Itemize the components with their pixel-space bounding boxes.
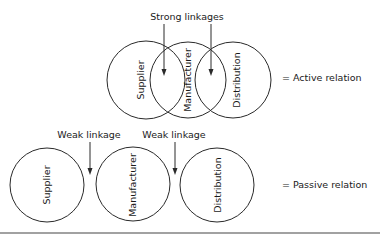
strong-linkage-arrow-1 — [162, 24, 167, 76]
passive-supplier-label: Supplier — [41, 165, 52, 204]
passive-distribution-label: Distribution — [212, 157, 223, 212]
active-relation-group: Strong linkages Supplier Manufacturer Di… — [107, 11, 362, 119]
active-supplier-label: Supplier — [135, 60, 146, 99]
passive-relation-group: Weak linkage Weak linkage Supplier Manuf… — [10, 129, 367, 222]
active-relation-legend: = Active relation — [282, 72, 362, 83]
arrow-down-icon — [88, 168, 93, 175]
active-distribution-label: Distribution — [231, 52, 242, 107]
passive-relation-legend: = Passive relation — [282, 179, 367, 190]
arrow-down-icon — [209, 69, 214, 76]
active-manufacturer-label: Manufacturer — [182, 48, 193, 112]
weak-linkage-arrow-1 — [88, 142, 93, 175]
weak-linkage-label-1: Weak linkage — [57, 129, 121, 140]
arrow-down-icon — [173, 168, 178, 175]
supply-chain-relations-diagram: Strong linkages Supplier Manufacturer Di… — [0, 0, 380, 238]
weak-linkage-arrow-2 — [173, 142, 178, 175]
weak-linkage-label-2: Weak linkage — [142, 129, 206, 140]
passive-manufacturer-label: Manufacturer — [127, 153, 138, 217]
active-supplier-circle — [107, 41, 185, 119]
arrow-down-icon — [162, 69, 167, 76]
strong-linkages-label: Strong linkages — [150, 11, 224, 22]
